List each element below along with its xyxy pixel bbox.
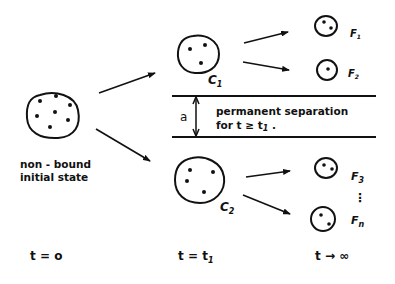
fragment-f2 bbox=[317, 60, 337, 80]
particle-dot bbox=[326, 67, 330, 71]
distance-label: a bbox=[180, 110, 187, 124]
initial-state-label-line2: initial state bbox=[20, 171, 88, 183]
separation-text-line2: for t ≥ t1 . bbox=[216, 119, 276, 133]
particle-dot bbox=[202, 190, 206, 194]
time-label-t0: t = o bbox=[30, 249, 62, 263]
separation-text-line1: permanent separation bbox=[216, 105, 348, 117]
fragment-f1-label: F1 bbox=[350, 28, 361, 40]
fragment-f3 bbox=[315, 158, 337, 178]
particle-dot bbox=[53, 110, 57, 114]
cluster-c2 bbox=[175, 157, 224, 203]
particle-dot bbox=[322, 20, 326, 24]
arrow-c2-to-f3 bbox=[246, 171, 290, 177]
particle-dot bbox=[203, 43, 207, 47]
particle-dot bbox=[188, 47, 192, 51]
particle-dot bbox=[322, 163, 326, 167]
particle-dot bbox=[35, 114, 39, 118]
particle-dot bbox=[185, 179, 189, 183]
cluster-c1 bbox=[178, 36, 219, 73]
fragment-f2-label: F2 bbox=[348, 68, 359, 80]
cluster-c2-label: C2 bbox=[220, 200, 235, 216]
fragment-fn-label: Fn bbox=[351, 214, 365, 229]
particle-dot bbox=[68, 103, 72, 107]
particle-dot bbox=[330, 167, 334, 171]
ellipsis-vertical: ⋮ bbox=[354, 191, 366, 205]
particle-dot bbox=[38, 99, 42, 103]
initial-state-label-line1: non - bound bbox=[20, 158, 91, 170]
time-label-t1: t = t1 bbox=[178, 249, 213, 265]
time-label-tinf: t → ∞ bbox=[315, 249, 349, 263]
particle-dot bbox=[66, 118, 70, 122]
arrow-c1-to-f2 bbox=[243, 62, 289, 70]
particle-dot bbox=[327, 222, 331, 226]
diagram-canvas: non - bound initial state C1 F1 F2 a per… bbox=[0, 0, 395, 284]
initial-state-cluster bbox=[27, 93, 79, 138]
particle-dot bbox=[54, 94, 58, 98]
particle-dot bbox=[319, 213, 323, 217]
particle-dot bbox=[188, 168, 192, 172]
arrow-to-c2 bbox=[96, 129, 150, 161]
particle-dot bbox=[199, 61, 203, 65]
fragment-f3-label: F3 bbox=[351, 170, 365, 185]
particle-dot bbox=[329, 26, 333, 30]
arrow-c1-to-f1 bbox=[244, 32, 288, 43]
separation-band: a permanent separation for t ≥ t1 . bbox=[172, 96, 376, 137]
cluster-c1-label: C1 bbox=[208, 73, 222, 89]
fragment-f1 bbox=[315, 16, 337, 36]
arrow-c2-to-fn bbox=[243, 195, 290, 214]
fragment-fn bbox=[311, 207, 335, 231]
particle-dot bbox=[48, 125, 52, 129]
particle-dot bbox=[211, 170, 215, 174]
arrow-to-c1 bbox=[99, 73, 155, 93]
